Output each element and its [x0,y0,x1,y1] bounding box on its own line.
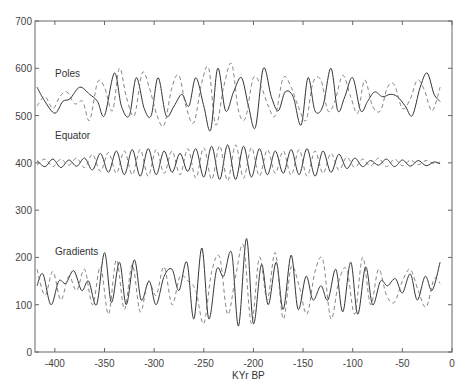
y-tick-label: 400 [15,158,32,169]
gradients-label: Gradients [55,246,98,257]
y-tick-label: 700 [15,16,32,27]
poles-solid-line [37,68,440,131]
y-tick-label: 100 [15,300,32,311]
x-tick-label: -100 [343,358,363,369]
x-tick-label: 0 [449,358,455,369]
equator-dashed-line [37,145,440,181]
equator-label: Equator [55,130,91,141]
x-tick-label: -300 [144,358,164,369]
x-tick-label: -50 [395,358,410,369]
y-tick-label: 200 [15,252,32,263]
x-tick-label: -200 [243,358,263,369]
y-tick-label: 500 [15,111,32,122]
equator-solid-line [37,145,440,180]
y-tick-label: 0 [26,347,32,358]
x-tick-label: -350 [94,358,114,369]
poles-label: Poles [55,68,80,79]
axes: -400-350-300-250-200-150-100-50001002003… [15,16,455,369]
y-tick-label: 300 [15,205,32,216]
chart: -400-350-300-250-200-150-100-50001002003… [0,0,468,392]
y-tick-label: 600 [15,63,32,74]
x-axis-title: KYr BP [232,370,265,381]
series-layer [37,63,440,326]
x-tick-label: -400 [45,358,65,369]
x-tick-label: -150 [293,358,313,369]
x-tick-label: -250 [194,358,214,369]
